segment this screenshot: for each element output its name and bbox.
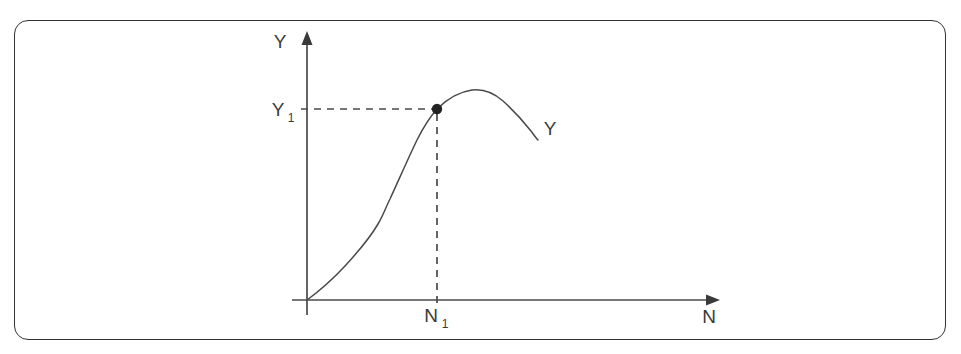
y-axis-arrow-icon: [302, 31, 313, 45]
marked-point-dot: [432, 104, 442, 114]
y-axis-title: Y: [274, 31, 287, 52]
curve-name-label: Y: [544, 118, 557, 139]
x-axis-arrow-icon: [706, 295, 720, 306]
y-value-label-main: Y: [272, 99, 285, 120]
x-value-label-main: N: [424, 305, 438, 326]
figure-root: Y N Y 1 N 1 Y: [0, 0, 961, 354]
total-product-curve: [307, 90, 538, 300]
x-axis-title: N: [702, 306, 716, 327]
y-value-label-subscript: 1: [288, 111, 295, 125]
plot-canvas: Y N Y 1 N 1 Y: [0, 0, 961, 354]
x-value-label-subscript: 1: [442, 317, 449, 331]
